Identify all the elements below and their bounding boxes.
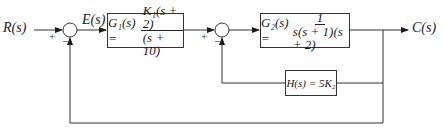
g2-numerator: 1 <box>315 11 326 25</box>
output-label: C(s) <box>412 20 436 36</box>
input-label: R(s) <box>3 20 26 36</box>
g2-denominator: s(s + 1)(s + 2) <box>291 25 349 51</box>
g1-lhs: G₁(s) = <box>108 15 140 47</box>
h-block: H(s) = 5K₂ <box>285 70 337 96</box>
block-diagram-wires <box>0 0 444 132</box>
g1-denominator: (s + 10) <box>141 31 183 57</box>
g1-fraction: K₁(s + 2) (s + 10) <box>141 4 183 57</box>
g2-fraction: 1 s(s + 1)(s + 2) <box>291 11 349 51</box>
summer2-plus-sign: + <box>201 30 207 42</box>
summer1-plus-sign: + <box>49 30 55 42</box>
summer2-minus-sign: − <box>214 35 220 47</box>
g2-lhs: G₂(s) = <box>261 15 290 47</box>
g1-block: G₁(s) = K₁(s + 2) (s + 10) <box>107 13 184 48</box>
error-label: E(s) <box>82 12 105 28</box>
g1-numerator: K₁(s + 2) <box>141 4 183 31</box>
h-expression: H(s) = 5K₂ <box>286 77 335 89</box>
summer1-minus-sign: − <box>62 35 68 47</box>
g2-block: G₂(s) = 1 s(s + 1)(s + 2) <box>260 13 350 48</box>
